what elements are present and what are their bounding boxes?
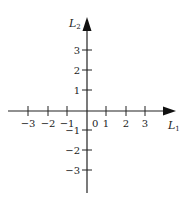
x-tick-label: 3 xyxy=(142,118,148,129)
y-axis-label-subscript: 2 xyxy=(76,23,80,31)
y-tick-label: −3 xyxy=(65,165,80,176)
origin-label: 0 xyxy=(92,118,98,129)
x-tick-label: 1 xyxy=(103,118,109,129)
y-axis-label: L2 xyxy=(68,17,81,31)
x-axis-label-main: L xyxy=(167,119,175,132)
y-tick-label: −1 xyxy=(65,125,80,136)
y-tick-label: 2 xyxy=(74,65,80,76)
x-tick-labels: −3 −2 −1 1 2 3 xyxy=(21,118,149,129)
x-tick-label: −3 xyxy=(21,118,36,129)
x-tick-label: −2 xyxy=(41,118,56,129)
y-tick-label: −2 xyxy=(65,145,80,156)
y-axis-label-main: L xyxy=(68,17,76,30)
y-tick-label: 3 xyxy=(74,45,80,56)
x-axis-arrowhead-icon xyxy=(163,107,176,116)
x-tick-label: 2 xyxy=(123,118,129,129)
x-axis-label-subscript: 1 xyxy=(175,125,179,133)
x-axis-label: L1 xyxy=(167,119,180,133)
axes-svg: −3 −2 −1 1 2 3 0 3 2 1 −1 −2 −3 L1 L2 xyxy=(0,0,191,200)
y-tick-label: 1 xyxy=(74,85,80,96)
y-axis-arrowhead-icon xyxy=(83,17,92,31)
coordinate-diagram: −3 −2 −1 1 2 3 0 3 2 1 −1 −2 −3 L1 L2 xyxy=(0,0,191,200)
